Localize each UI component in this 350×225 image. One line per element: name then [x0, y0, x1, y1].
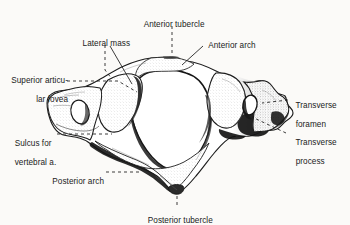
label-transverse-process-line1: Transverse	[296, 138, 337, 147]
label-lateral-mass: Lateral mass	[56, 29, 152, 48]
label-superior-articular-fovea-line2: lar fovea	[36, 95, 68, 104]
label-anterior-tubercle-line1: Anterior tubercle	[144, 20, 205, 29]
label-anterior-arch-line1: Anterior arch	[208, 41, 256, 50]
label-posterior-tubercle: Posterior tubercle	[122, 206, 234, 225]
label-sulcus-vertebral-artery-line1: Sulcus for	[15, 139, 52, 148]
label-superior-articular-fovea: Superior articu- lar fovea	[2, 66, 68, 104]
label-transverse-foramen: Transverse foramen	[291, 91, 350, 129]
label-transverse-foramen-line1: Transverse	[296, 101, 337, 110]
label-lateral-mass-line1: Lateral mass	[83, 39, 130, 48]
label-anterior-tubercle: Anterior tubercle	[114, 10, 230, 29]
label-superior-articular-fovea-line1: Superior articu-	[11, 76, 68, 85]
label-sulcus-vertebral-artery-line2: vertebral a.	[15, 158, 57, 167]
label-transverse-process: Transverse process	[291, 128, 350, 166]
label-anterior-arch: Anterior arch	[204, 31, 296, 50]
label-posterior-tubercle-line1: Posterior tubercle	[148, 216, 213, 225]
label-transverse-process-line2: process	[296, 157, 325, 166]
label-posterior-arch: Posterior arch	[18, 167, 104, 186]
label-sulcus-vertebral-artery: Sulcus for vertebral a.	[10, 129, 80, 167]
label-posterior-arch-line1: Posterior arch	[52, 177, 104, 186]
